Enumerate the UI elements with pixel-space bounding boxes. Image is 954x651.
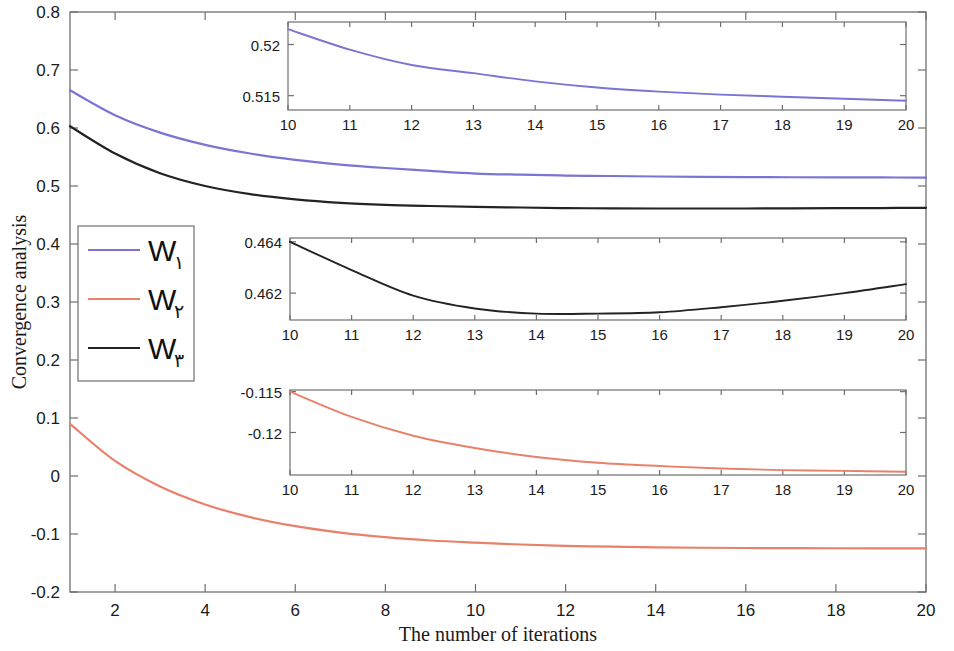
- x-tick-label: 2: [110, 601, 119, 620]
- inset-W٣: 10111213141516171819200.4620.464: [244, 234, 914, 343]
- inset-x-tick-label: 12: [405, 326, 422, 343]
- y-tick-label: 0.1: [36, 409, 60, 428]
- x-tick-label: 20: [917, 601, 936, 620]
- legend-label-3: W: [148, 332, 177, 365]
- inset-x-tick-label: 18: [774, 326, 791, 343]
- inset-x-tick-label: 12: [403, 116, 420, 133]
- inset-W٢: 1011121314151617181920-0.12-0.115: [241, 384, 915, 498]
- x-tick-label: 18: [826, 601, 845, 620]
- inset-x-tick-label: 18: [774, 481, 791, 498]
- y-tick-label: 0.8: [36, 3, 60, 22]
- inset-x-tick-label: 16: [650, 116, 667, 133]
- inset-x-tick-label: 19: [836, 326, 853, 343]
- inset-y-tick-label: 0.515: [242, 88, 280, 105]
- inset-x-tick-label: 17: [712, 116, 729, 133]
- y-axis-title: Convergence analysis: [8, 215, 31, 390]
- y-tick-label: 0.6: [36, 119, 60, 138]
- inset-x-tick-label: 15: [590, 326, 607, 343]
- x-tick-label: 10: [466, 601, 485, 620]
- x-tick-label: 14: [646, 601, 665, 620]
- inset-x-tick-label: 16: [651, 481, 668, 498]
- inset-y-tick-label: 0.52: [251, 37, 280, 54]
- x-axis-title: The number of iterations: [399, 623, 597, 645]
- inset-x-tick-label: 13: [465, 116, 482, 133]
- inset-x-tick-label: 10: [282, 481, 299, 498]
- inset-y-tick-label: -0.115: [241, 384, 282, 401]
- inset-W١: 10111213141516171819200.5150.52: [242, 22, 914, 133]
- inset-x-tick-label: 10: [282, 326, 299, 343]
- inset-x-tick-label: 10: [280, 116, 297, 133]
- inset-x-tick-label: 11: [344, 326, 360, 343]
- inset-x-tick-label: 20: [898, 326, 915, 343]
- inset-x-tick-label: 14: [528, 481, 545, 498]
- x-tick-label: 12: [556, 601, 575, 620]
- inset-x-tick-label: 20: [898, 116, 915, 133]
- inset-x-tick-label: 17: [713, 481, 730, 498]
- inset-x-tick-label: 13: [466, 481, 483, 498]
- legend-label-1: W: [148, 234, 177, 267]
- x-tick-label: 4: [200, 601, 209, 620]
- inset-y-tick-label: 0.462: [244, 285, 282, 302]
- inset-x-tick-label: 12: [405, 481, 422, 498]
- inset-y-tick-label: 0.464: [244, 234, 282, 251]
- inset-x-tick-label: 14: [528, 326, 545, 343]
- convergence-analysis-figure: 2468101214161820-0.2-0.100.10.20.30.40.5…: [0, 0, 954, 651]
- inset-y-tick-label: -0.12: [248, 425, 282, 442]
- inset-x-tick-label: 20: [898, 481, 915, 498]
- y-tick-label: -0.1: [31, 525, 60, 544]
- y-tick-label: 0.7: [36, 61, 60, 80]
- y-tick-label: 0.4: [36, 235, 60, 254]
- x-tick-label: 8: [381, 601, 390, 620]
- y-tick-label: -0.2: [31, 583, 60, 602]
- inset-x-tick-label: 13: [466, 326, 483, 343]
- x-tick-label: 6: [291, 601, 300, 620]
- legend-subscript-3: ٣: [174, 350, 184, 371]
- legend-subscript-1: ١: [174, 252, 184, 273]
- y-tick-label: 0.5: [36, 177, 60, 196]
- inset-x-tick-label: 16: [651, 326, 668, 343]
- inset-x-tick-label: 18: [774, 116, 791, 133]
- legend-label-2: W: [148, 283, 177, 316]
- inset-x-tick-label: 11: [344, 481, 360, 498]
- convergence-analysis-chart: 2468101214161820-0.2-0.100.10.20.30.40.5…: [0, 0, 954, 651]
- inset-x-tick-label: 19: [836, 481, 853, 498]
- legend-subscript-2: ٢: [174, 301, 184, 322]
- y-tick-label: 0.2: [36, 351, 60, 370]
- y-tick-label: 0: [51, 467, 60, 486]
- inset-frame: [290, 238, 906, 320]
- y-tick-label: 0.3: [36, 293, 60, 312]
- inset-x-tick-label: 11: [342, 116, 358, 133]
- inset-x-tick-label: 19: [836, 116, 853, 133]
- inset-x-tick-label: 17: [713, 326, 730, 343]
- inset-x-tick-label: 15: [590, 481, 607, 498]
- inset-x-tick-label: 14: [527, 116, 544, 133]
- series-curve-W٣: [70, 126, 926, 208]
- inset-x-tick-label: 15: [589, 116, 606, 133]
- x-tick-label: 16: [736, 601, 755, 620]
- legend: W١W٢W٣: [78, 226, 194, 381]
